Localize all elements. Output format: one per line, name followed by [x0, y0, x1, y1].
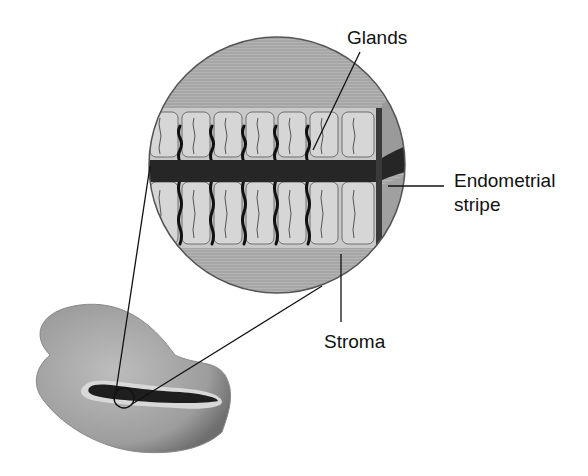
diagram-graphic [0, 0, 588, 476]
label-glands: Glands [347, 27, 407, 49]
magnified-endometrium [140, 30, 420, 300]
diagram-canvas: Glands Endometrial stripe Stroma [0, 0, 588, 476]
label-endometrial-stripe-line2: stripe [454, 194, 500, 216]
label-stroma: Stroma [324, 331, 385, 353]
uterus-overview [36, 304, 230, 452]
label-endometrial-stripe-line1: Endometrial [454, 170, 555, 192]
